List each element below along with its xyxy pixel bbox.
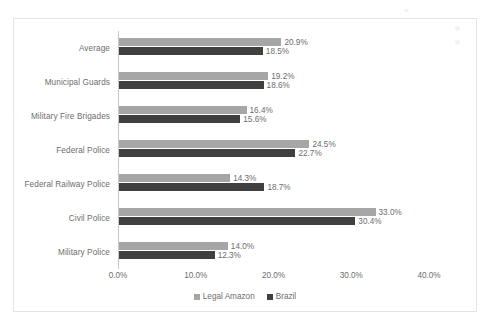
bar-brazil: 30.4%: [119, 217, 355, 225]
bar-value-label: 20.9%: [284, 38, 307, 47]
legend-label: Legal Amazon: [203, 292, 255, 301]
bar-group: Military Police14.0%12.3%: [118, 235, 429, 269]
category-label: Civil Police: [69, 214, 110, 223]
x-axis-tick-labels: 0.0%10.0%20.0%30.0%40.0%: [118, 271, 429, 285]
legend-item[interactable]: Brazil: [267, 292, 296, 301]
x-axis-tick: 30.0%: [340, 271, 363, 280]
category-label: Municipal Guards: [45, 78, 110, 87]
bar-value-label: 16.4%: [250, 106, 273, 115]
bar-value-label: 22.7%: [298, 149, 321, 158]
scan-artifact: [455, 26, 460, 31]
chart-legend: Legal AmazonBrazil: [14, 292, 476, 301]
category-label: Military Police: [58, 248, 110, 257]
bar-group: Federal Police24.5%22.7%: [118, 133, 429, 167]
bar-value-label: 33.0%: [379, 208, 402, 217]
bar-brazil: 18.6%: [119, 81, 264, 89]
bar-brazil: 15.6%: [119, 115, 240, 123]
bar-brazil: 22.7%: [119, 149, 295, 157]
bar-group: Federal Railway Police14.3%18.7%: [118, 167, 429, 201]
category-label: Federal Railway Police: [25, 180, 110, 189]
bar-group: Municipal Guards19.2%18.6%: [118, 65, 429, 99]
bar-legal-amazon: 20.9%: [119, 38, 281, 46]
category-label: Average: [79, 44, 110, 53]
bar-brazil: 18.7%: [119, 183, 264, 191]
bar-value-label: 18.5%: [266, 47, 289, 56]
x-axis-tick: 40.0%: [417, 271, 440, 280]
bar-value-label: 18.6%: [267, 81, 290, 90]
bar-group: Average20.9%18.5%: [118, 31, 429, 65]
plot-area: Average20.9%18.5%Municipal Guards19.2%18…: [118, 31, 429, 269]
bar-value-label: 18.7%: [267, 183, 290, 192]
bar-legal-amazon: 33.0%: [119, 208, 376, 216]
bar-group: Civil Police33.0%30.4%: [118, 201, 429, 235]
bar-value-label: 14.0%: [231, 242, 254, 251]
bar-legal-amazon: 14.0%: [119, 242, 228, 250]
bar-legal-amazon: 14.3%: [119, 174, 230, 182]
category-label: Federal Police: [56, 146, 110, 155]
scan-artifact: [455, 40, 460, 45]
x-axis-tick: 0.0%: [109, 271, 128, 280]
bar-value-label: 30.4%: [358, 217, 381, 226]
bar-value-label: 12.3%: [218, 251, 241, 260]
chart-figure: Average20.9%18.5%Municipal Guards19.2%18…: [13, 18, 477, 312]
x-axis-tick: 20.0%: [262, 271, 285, 280]
bar-legal-amazon: 16.4%: [119, 106, 247, 114]
legend-item[interactable]: Legal Amazon: [194, 292, 255, 301]
bar-brazil: 18.5%: [119, 47, 263, 55]
bar-value-label: 19.2%: [271, 72, 294, 81]
bar-legal-amazon: 24.5%: [119, 140, 309, 148]
bar-value-label: 14.3%: [233, 174, 256, 183]
bar-value-label: 24.5%: [312, 140, 335, 149]
scan-artifact: [404, 9, 409, 12]
legend-label: Brazil: [276, 292, 296, 301]
legend-swatch-icon: [194, 294, 200, 300]
category-label: Military Fire Brigades: [31, 112, 110, 121]
legend-swatch-icon: [267, 294, 273, 300]
x-axis-tick: 10.0%: [184, 271, 207, 280]
bar-brazil: 12.3%: [119, 251, 215, 259]
bar-group: Military Fire Brigades16.4%15.6%: [118, 99, 429, 133]
bar-value-label: 15.6%: [243, 115, 266, 124]
bar-legal-amazon: 19.2%: [119, 72, 268, 80]
